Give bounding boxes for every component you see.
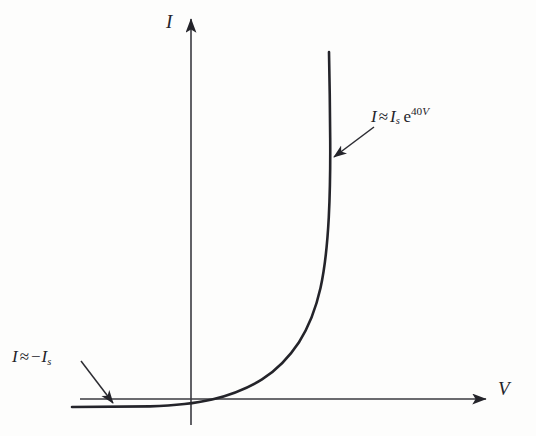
forward-annotation-arrow (334, 127, 374, 157)
forward-annotation-term-subscript: s (396, 115, 400, 126)
forward-annotation-exponent-coefficient: 40 (411, 105, 422, 117)
reverse-annotation-base: I (12, 347, 18, 366)
diode-curve (72, 52, 330, 407)
reverse-annotation-arrow (81, 361, 113, 403)
forward-annotation-relation: ≈ (377, 107, 390, 126)
forward-annotation-exponent: 40V (411, 105, 429, 117)
x-axis-label: V (498, 379, 510, 398)
reverse-annotation-sign: − (31, 347, 42, 366)
forward-annotation-base: I (371, 107, 377, 126)
reverse-saturation-annotation: I≈−Is (12, 348, 52, 367)
diode-iv-characteristic-figure: I V I≈Is e40V I≈−Is (0, 0, 536, 436)
figure-canvas (0, 0, 536, 436)
reverse-annotation-relation: ≈ (18, 347, 31, 366)
forward-annotation-exponent-variable: V (422, 105, 429, 117)
forward-annotation-exponential-base: e (403, 107, 411, 126)
forward-bias-annotation: I≈Is e40V (371, 106, 429, 127)
reverse-annotation-term-subscript: s (47, 356, 51, 367)
y-axis-label: I (166, 12, 172, 31)
